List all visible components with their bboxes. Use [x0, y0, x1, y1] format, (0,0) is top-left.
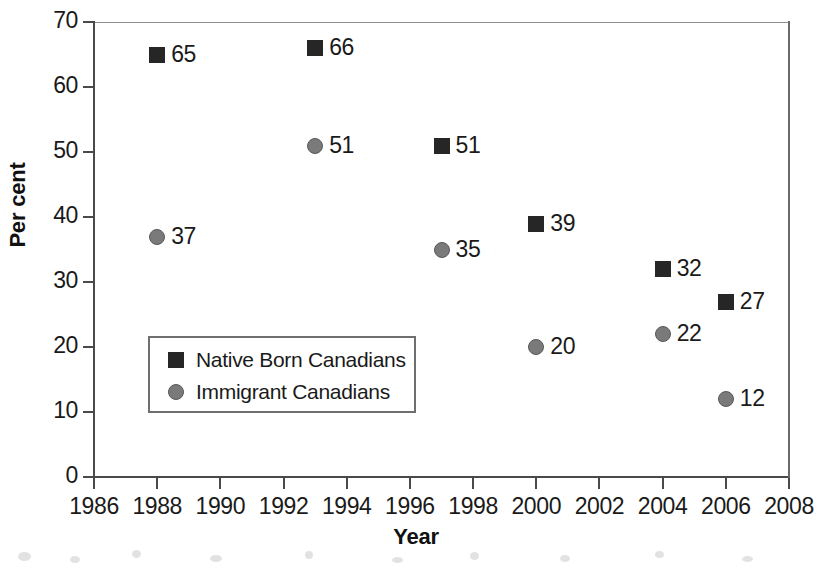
- scan-speck: [70, 556, 80, 563]
- y-tick-label-wrap: 60: [10, 74, 78, 98]
- scan-speck: [392, 557, 403, 563]
- data-point-value-label: 32: [677, 255, 702, 281]
- x-tick-mark: [346, 478, 348, 489]
- square-marker-icon: [528, 216, 544, 232]
- x-tick-mark: [156, 478, 158, 489]
- data-point-value-label: 35: [456, 236, 481, 262]
- x-tick-mark: [93, 478, 95, 489]
- data-point-value-label: 12: [740, 385, 765, 411]
- square-marker-icon: [718, 294, 734, 310]
- legend-square-marker-icon: [168, 352, 184, 368]
- data-point-value-label: 37: [171, 223, 196, 249]
- scan-speck: [18, 552, 31, 561]
- y-axis-line: [93, 21, 95, 478]
- scan-speck: [470, 552, 479, 560]
- y-tick-label-wrap: 20: [10, 334, 78, 358]
- legend-entry-immigrant: Immigrant Canadians: [168, 376, 414, 408]
- x-tick-mark: [598, 478, 600, 489]
- x-tick-mark: [219, 478, 221, 489]
- y-tick-label: 60: [18, 74, 78, 97]
- x-tick-mark: [472, 478, 474, 489]
- square-marker-icon: [655, 261, 671, 277]
- data-point-value-label: 51: [456, 132, 481, 158]
- data-point-value-label: 66: [329, 34, 354, 60]
- y-axis-title: Per cent: [5, 135, 31, 275]
- scan-speck: [655, 551, 664, 558]
- legend-entry-native-born: Native Born Canadians: [168, 344, 414, 376]
- x-tick-mark: [409, 478, 411, 489]
- x-tick-mark: [535, 478, 537, 489]
- data-point-value-label: 20: [550, 333, 575, 359]
- data-point-value-label: 51: [329, 132, 354, 158]
- x-tick-mark: [662, 478, 664, 489]
- scan-speck: [742, 556, 753, 562]
- y-tick-label: 10: [18, 399, 78, 422]
- y-tick-mark: [83, 216, 93, 218]
- square-marker-icon: [307, 40, 323, 56]
- y-tick-mark: [83, 476, 93, 478]
- circle-marker-icon: [718, 391, 734, 407]
- circle-marker-icon: [655, 326, 671, 342]
- y-tick-label-wrap: 70: [10, 9, 78, 33]
- y-tick-mark: [83, 86, 93, 88]
- y-tick-mark: [83, 346, 93, 348]
- x-tick-mark: [283, 478, 285, 489]
- scatter-chart-figure: 010203040506070 198619881990199219941996…: [0, 0, 832, 572]
- x-tick-label: 2008: [749, 494, 829, 518]
- x-axis-line: [93, 476, 790, 478]
- circle-marker-icon: [149, 229, 165, 245]
- y-tick-mark: [83, 21, 93, 23]
- scan-artifact-strip: [0, 546, 832, 572]
- y-tick-label: 0: [18, 464, 78, 487]
- legend-box: Native Born Canadians Immigrant Canadian…: [148, 336, 416, 413]
- legend-label-native-born: Native Born Canadians: [196, 349, 406, 371]
- y-tick-label: 70: [18, 9, 78, 32]
- scan-speck: [210, 555, 222, 562]
- circle-marker-icon: [434, 242, 450, 258]
- x-tick-mark: [788, 478, 790, 489]
- legend-circle-marker-icon: [168, 384, 184, 400]
- data-point-value-label: 22: [677, 320, 702, 346]
- circle-marker-icon: [307, 138, 323, 154]
- square-marker-icon: [434, 138, 450, 154]
- y-tick-mark: [83, 411, 93, 413]
- right-axis-line: [788, 21, 790, 478]
- y-tick-label-wrap: 0: [10, 464, 78, 488]
- data-point-value-label: 39: [550, 210, 575, 236]
- scan-speck: [132, 550, 141, 558]
- x-tick-mark: [725, 478, 727, 489]
- data-point-value-label: 27: [740, 288, 765, 314]
- y-tick-mark: [83, 151, 93, 153]
- legend-label-immigrant: Immigrant Canadians: [196, 381, 390, 403]
- data-point-value-label: 65: [171, 41, 196, 67]
- scan-speck: [305, 551, 313, 559]
- square-marker-icon: [149, 47, 165, 63]
- y-tick-label-wrap: 10: [10, 399, 78, 423]
- scan-speck: [560, 555, 570, 562]
- y-tick-label: 20: [18, 334, 78, 357]
- y-tick-mark: [83, 281, 93, 283]
